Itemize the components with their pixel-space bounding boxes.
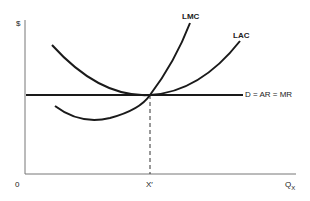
lac-label: LAC	[233, 31, 249, 40]
x-axis-label: QX	[285, 180, 295, 191]
x-prime-label: X′	[146, 180, 153, 189]
origin-label: 0	[15, 180, 19, 189]
lac-curve	[52, 41, 240, 95]
lmc-curve	[55, 23, 190, 120]
cost-curve-diagram	[0, 0, 310, 201]
y-axis-label: $	[16, 19, 20, 28]
demand-label: D = AR = MR	[245, 90, 292, 99]
lmc-label: LMC	[182, 12, 199, 21]
